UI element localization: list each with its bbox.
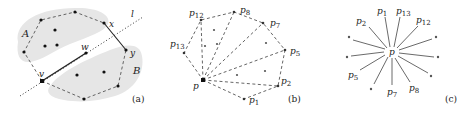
label-p2-c: p2 [356,16,366,28]
label-A: A [21,28,29,39]
label-p7-b: p7 [270,18,280,30]
panel-b: p p1 p2 p5 p7 p8 p12 p13 (b) [170,5,301,107]
figure: A B x y w v l (a) [0,0,470,114]
segment-xy [104,23,126,50]
label-p12-b: p12 [189,8,204,20]
label-B: B [132,65,140,76]
panel-c: p p1 p13 p2 p12 p5 p7 p8 (c) [346,6,457,104]
label-p12-c: p12 [416,15,431,27]
region-B [48,45,142,101]
label-l: l [131,9,134,19]
label-y: y [129,48,136,58]
label-p8-b: p8 [240,5,250,17]
label-x: x [109,19,114,29]
label-p5-b: p5 [290,46,300,58]
caption-b: (b) [288,94,301,104]
region-A [17,8,108,62]
label-v: v [39,69,44,79]
label-p13-c: p13 [396,6,411,18]
label-p13-b: p13 [170,39,185,51]
label-p2-b: p2 [281,76,291,88]
label-p8-c: p8 [409,83,419,95]
label-w: w [81,42,89,52]
label-p1-c: p1 [377,6,387,18]
panel-a: A B x y w v l (a) [17,8,144,104]
label-p5-c: p5 [348,70,358,82]
caption-a: (a) [132,94,144,104]
label-p1-b: p1 [249,95,259,107]
points-c [346,36,439,90]
label-p7-c: p7 [387,87,397,99]
label-p-b: p [193,81,199,91]
label-p-c: p [389,47,395,57]
caption-c: (c) [445,94,457,104]
